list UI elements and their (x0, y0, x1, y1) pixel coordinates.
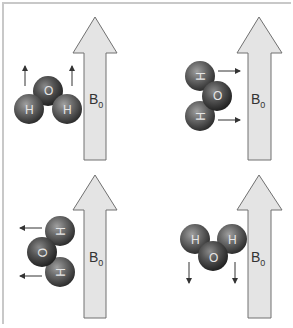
atom-label-o: O (44, 84, 53, 98)
diagram-canvas: B0 O H H B0 H O (0, 0, 293, 328)
panel-bottom-left: B0 H O H (20, 175, 117, 318)
diagram-frame: B0 O H H B0 H O (0, 0, 293, 328)
b0-field-arrow (73, 17, 117, 160)
atom-label-h: H (228, 233, 237, 247)
b0-field-arrow (73, 175, 117, 318)
panel-bottom-right: B0 H H O (180, 175, 282, 318)
atom-label-h: H (63, 103, 72, 117)
atom-label-o: O (35, 248, 49, 257)
panel-top-left: B0 O H H (14, 17, 117, 160)
atom-label-h: H (191, 233, 200, 247)
atom-label-h: H (193, 112, 207, 121)
atom-label-h: H (193, 72, 207, 81)
water-molecule: H H O (180, 224, 247, 271)
atom-label-h: H (53, 268, 67, 277)
panel-top-right: B0 H O H (185, 17, 282, 160)
atom-label-h: H (25, 103, 34, 117)
b0-field-arrow (237, 17, 282, 160)
atom-label-o: O (209, 251, 218, 265)
atom-label-h: H (53, 227, 67, 236)
atom-label-o: O (213, 89, 222, 103)
